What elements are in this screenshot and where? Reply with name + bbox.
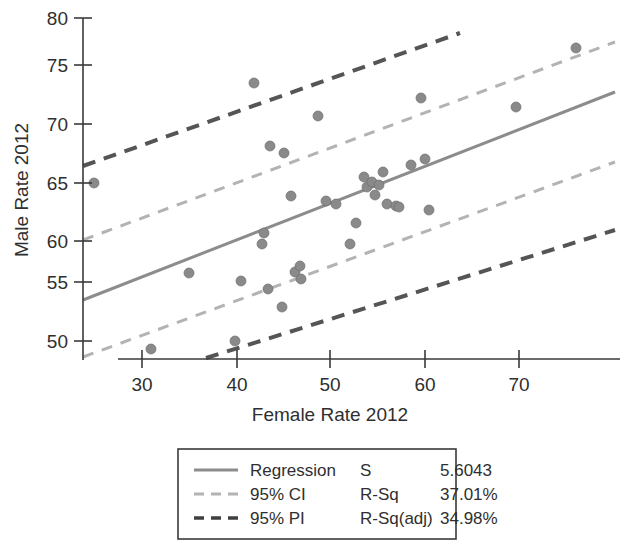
x-tick-label: 70 <box>508 374 529 395</box>
data-point <box>265 141 275 151</box>
data-point <box>236 276 246 286</box>
legend-label-ci: 95% CI <box>250 485 306 504</box>
regression-line-group <box>83 92 615 300</box>
data-point <box>321 196 331 206</box>
data-point <box>313 111 323 121</box>
legend: Regression S 5.6043 95% CI R-Sq 37.01% 9… <box>178 449 498 539</box>
x-tick-label: 30 <box>131 374 152 395</box>
ci-lower-line <box>83 162 615 357</box>
fitted-line-plot: 80 75 70 65 60 55 50 Male Rate 2012 30 4… <box>0 0 630 549</box>
y-tick-label: 80 <box>47 8 68 29</box>
legend-stat-name-rsqadj: R-Sq(adj) <box>360 509 433 528</box>
x-tick-label: 40 <box>226 374 247 395</box>
data-point <box>420 154 430 164</box>
data-point <box>370 190 380 200</box>
legend-stat-name-rsq: R-Sq <box>360 485 399 504</box>
legend-stat-value-rsq: 37.01% <box>440 485 498 504</box>
x-tick-label: 60 <box>414 374 435 395</box>
data-point <box>296 274 306 284</box>
data-point <box>146 344 156 354</box>
legend-stat-value-s: 5.6043 <box>440 461 492 480</box>
data-point <box>351 218 361 228</box>
y-tick-label: 65 <box>47 173 68 194</box>
data-point <box>257 239 267 249</box>
y-tick-label: 60 <box>47 231 68 252</box>
legend-stat-value-rsqadj: 34.98% <box>440 509 498 528</box>
data-point <box>259 228 269 238</box>
data-point <box>416 93 426 103</box>
data-point <box>279 148 289 158</box>
y-axis-title: Male Rate 2012 <box>11 123 32 257</box>
x-axis: 30 40 50 60 70 Female Rate 2012 <box>118 350 620 425</box>
regression-line <box>83 92 615 300</box>
legend-stat-name-s: S <box>360 461 371 480</box>
data-point <box>378 167 388 177</box>
scatter-points <box>89 43 581 354</box>
ci-upper-line <box>83 42 615 240</box>
y-tick-label: 70 <box>47 114 68 135</box>
data-point <box>277 302 287 312</box>
data-point <box>571 43 581 53</box>
y-axis: 80 75 70 65 60 55 50 Male Rate 2012 <box>11 8 92 360</box>
legend-label-regression: Regression <box>250 461 336 480</box>
legend-label-pi: 95% PI <box>250 509 305 528</box>
data-point <box>345 239 355 249</box>
x-axis-title: Female Rate 2012 <box>252 404 408 425</box>
data-point <box>295 261 305 271</box>
data-point <box>249 78 259 88</box>
data-point <box>331 199 341 209</box>
x-tick-label: 50 <box>319 374 340 395</box>
data-point <box>286 191 296 201</box>
data-point <box>511 102 521 112</box>
data-point <box>406 160 416 170</box>
data-point <box>394 202 404 212</box>
data-point <box>382 199 392 209</box>
y-tick-label: 50 <box>47 331 68 352</box>
data-point <box>184 268 194 278</box>
data-point <box>374 180 384 190</box>
y-tick-label: 55 <box>47 272 68 293</box>
data-point <box>263 284 273 294</box>
confidence-interval-band <box>83 42 615 357</box>
plot-svg: 80 75 70 65 60 55 50 Male Rate 2012 30 4… <box>0 0 630 549</box>
y-tick-label: 75 <box>47 55 68 76</box>
data-point <box>230 336 240 346</box>
data-point <box>424 205 434 215</box>
